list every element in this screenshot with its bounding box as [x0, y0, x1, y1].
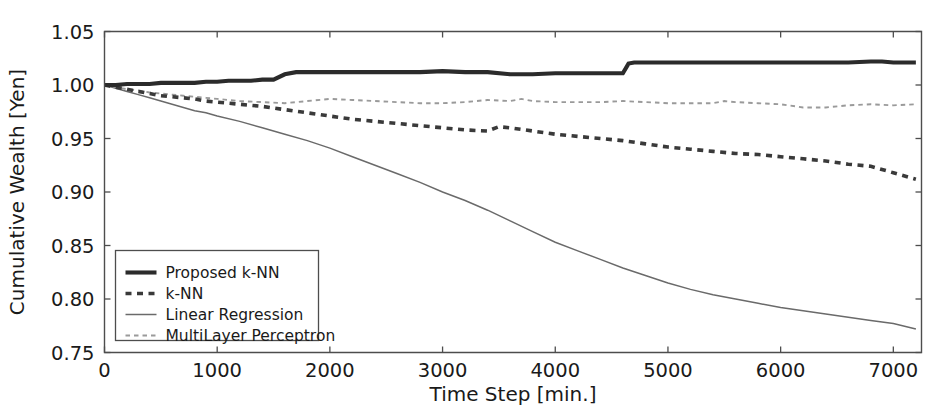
x-tick-label: 3000 — [418, 359, 468, 382]
x-tick-label: 1000 — [192, 359, 242, 382]
x-tick-label: 2000 — [305, 359, 355, 382]
chart-legend: Proposed k-NNk-NNLinear RegressionMultiL… — [116, 251, 336, 346]
y-tick-label: 0.95 — [51, 128, 94, 151]
y-tick-label: 1.05 — [51, 21, 94, 44]
legend-label: Linear Regression — [166, 306, 304, 324]
cumulative-wealth-line-chart: 0.750.800.850.900.951.001.05 01000200030… — [0, 0, 948, 406]
x-tick-label: 6000 — [756, 359, 806, 382]
y-tick-label: 0.75 — [51, 342, 94, 365]
series-line-multilayer-perceptron — [105, 85, 916, 107]
y-tick-label: 0.85 — [51, 235, 94, 258]
x-tick-label: 5000 — [643, 359, 693, 382]
y-axis-label: Cumulative Wealth [Yen] — [5, 69, 29, 315]
legend-label: k-NN — [166, 285, 204, 303]
legend-label: MultiLayer Perceptron — [166, 327, 336, 345]
x-axis-label: Time Step [min.] — [429, 382, 597, 406]
y-tick-label: 1.00 — [51, 74, 94, 97]
y-tick-label: 0.90 — [51, 181, 94, 204]
series-line-proposed-k-nn — [105, 61, 916, 85]
x-tick-label: 0 — [98, 359, 110, 382]
legend-label: Proposed k-NN — [166, 264, 280, 282]
x-tick-label: 7000 — [869, 359, 919, 382]
x-tick-label: 4000 — [530, 359, 580, 382]
y-tick-label: 0.80 — [51, 288, 94, 311]
chart-figure: 0.750.800.850.900.951.001.05 01000200030… — [0, 0, 948, 406]
